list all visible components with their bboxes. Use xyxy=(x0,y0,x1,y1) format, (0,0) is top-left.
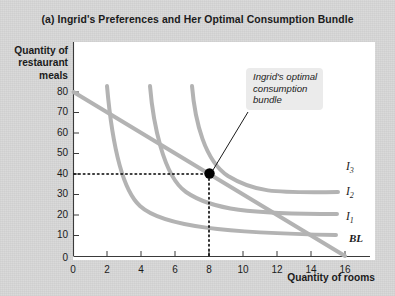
curve-label-i1: I1 xyxy=(346,210,354,225)
curve-label-bl: BL xyxy=(349,232,363,244)
curve-label-i2: I2 xyxy=(346,185,354,200)
callout-line-3: bundle xyxy=(253,94,282,105)
chart-graphics xyxy=(0,0,395,296)
y-tick-marks xyxy=(74,92,80,236)
callout-line-2: consumption xyxy=(253,83,307,94)
curve-label-i2-subscript: 2 xyxy=(350,191,354,200)
x-tick-marks xyxy=(107,251,345,257)
callout-leader-line xyxy=(213,112,248,170)
callout-line-1: Ingrid's optimal xyxy=(253,71,317,82)
optimal-bundle-point xyxy=(204,168,214,178)
curve-label-i3: I3 xyxy=(346,160,354,175)
optimal-bundle-callout: Ingrid's optimal consumption bundle xyxy=(246,68,323,110)
curve-label-i1-subscript: 1 xyxy=(350,216,354,225)
curve-label-i3-subscript: 3 xyxy=(350,166,354,175)
figure-container: (a) Ingrid's Preferences and Her Optimal… xyxy=(0,0,395,296)
